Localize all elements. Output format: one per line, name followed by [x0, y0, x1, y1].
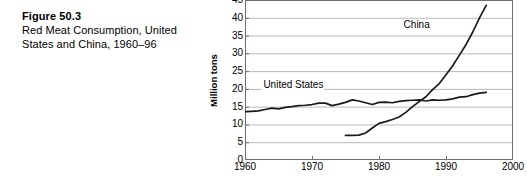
x-tick-label: 1960	[234, 161, 256, 172]
figure-description: Red Meat Consumption, United States and …	[22, 23, 202, 51]
series-line-united-states	[245, 92, 486, 111]
y-tick-label: 10	[232, 119, 243, 129]
y-axis-tick-labels: 051015202530354045	[219, 0, 245, 160]
figure-number: Figure 50.3	[22, 9, 202, 23]
x-tick-label: 1990	[435, 161, 457, 172]
y-tick-label: 30	[232, 48, 243, 58]
y-axis-title-text: Million tons	[208, 54, 219, 107]
y-tick-label: 40	[232, 13, 243, 23]
y-tick-label: 25	[232, 66, 243, 76]
x-axis-tick-labels: 19601970198019902000	[245, 158, 513, 176]
series-label-china: China	[403, 19, 431, 30]
line-chart: Million tons 051015202530354045 United S…	[205, 0, 527, 192]
figure-caption: Figure 50.3 Red Meat Consumption, United…	[22, 9, 202, 51]
figure-container: Figure 50.3 Red Meat Consumption, United…	[0, 0, 527, 192]
y-tick-label: 5	[237, 137, 243, 147]
plot-area: United States China	[245, 0, 513, 175]
y-tick-label: 15	[232, 102, 243, 112]
y-tick-label: 45	[232, 0, 243, 5]
x-tick-label: 1980	[368, 161, 390, 172]
y-tick-label: 35	[232, 31, 243, 41]
x-tick-label: 2000	[502, 161, 524, 172]
x-tick-label: 1970	[301, 161, 323, 172]
y-tick-label: 20	[232, 84, 243, 94]
series-label-united-states: United States	[262, 79, 324, 90]
